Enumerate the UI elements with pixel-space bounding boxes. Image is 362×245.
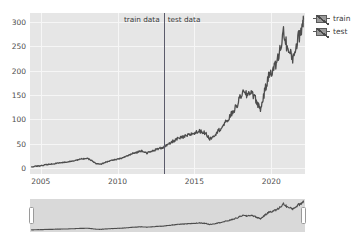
y-tick-label: 100 (12, 115, 26, 124)
legend-label-train: train (333, 14, 350, 23)
range-slider-overview[interactable] (30, 199, 305, 232)
legend-entry-train[interactable]: train (313, 14, 350, 23)
y-tick-label: 50 (16, 139, 26, 148)
x-tick-label: 2015 (185, 177, 204, 186)
range-handle-left[interactable] (29, 207, 34, 224)
annotation-train-data: train data (124, 15, 164, 24)
y-tick-label: 200 (12, 66, 26, 75)
legend-marker-icon (313, 14, 330, 23)
main-plot-area[interactable]: train data test data 050100150200250300 … (30, 13, 305, 174)
y-tick-label: 300 (12, 17, 26, 26)
x-tick-label: 2010 (108, 177, 127, 186)
y-tick-label: 150 (12, 90, 26, 99)
annotation-test-data: test data (164, 15, 201, 24)
series-lines (30, 13, 305, 174)
series-line-test (164, 16, 304, 147)
legend[interactable]: train test (313, 14, 350, 36)
overview-series (30, 199, 305, 232)
chart-figure: train data test data 050100150200250300 … (0, 0, 362, 245)
y-tick-label: 0 (21, 164, 26, 173)
train-test-split-line (164, 13, 165, 174)
y-tick-label: 250 (12, 42, 26, 51)
range-handle-right[interactable] (301, 207, 306, 224)
overview-line (32, 201, 304, 230)
legend-marker-icon (313, 27, 330, 36)
legend-entry-test[interactable]: test (313, 27, 350, 36)
x-tick-label: 2005 (31, 177, 50, 186)
series-line-train (32, 147, 164, 167)
x-tick-label: 2020 (262, 177, 281, 186)
legend-label-test: test (333, 27, 347, 36)
